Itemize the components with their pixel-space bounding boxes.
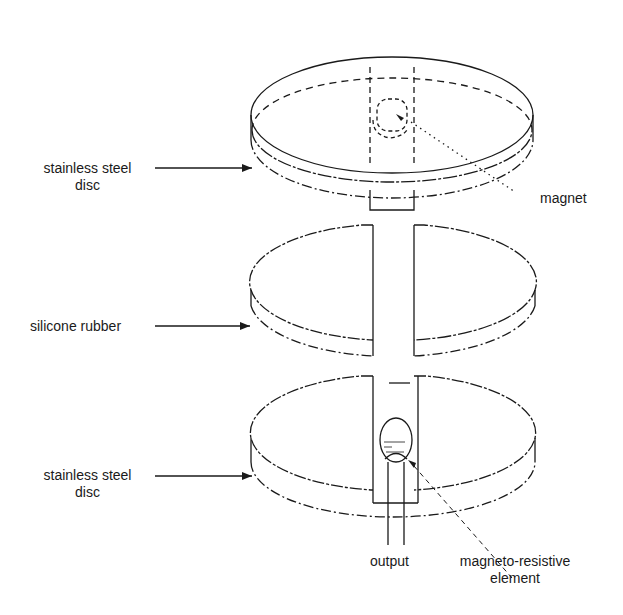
mr-element-label: magneto-resistive element xyxy=(446,553,584,587)
silicone-rubber-disc xyxy=(250,225,537,356)
top-disc-label-line1: stainless steel xyxy=(30,160,145,177)
arrowhead-icon xyxy=(242,164,252,172)
arrowhead-icon xyxy=(242,472,252,480)
bottom-disc-label-line1: stainless steel xyxy=(30,467,145,484)
sensor-stack-diagram xyxy=(0,0,623,615)
top-disc-label-line2: disc xyxy=(30,177,145,194)
label-arrows xyxy=(155,164,252,480)
silicone-rubber-label-text: silicone rubber xyxy=(30,318,121,335)
arrowhead-icon xyxy=(240,322,250,330)
magneto-resistive-element xyxy=(380,418,416,545)
mr-element-label-line2: element xyxy=(446,570,584,587)
top-disc-label: stainless steel disc xyxy=(30,160,145,194)
magnet-arrowhead-icon xyxy=(396,114,404,121)
magnet-leader-line xyxy=(411,122,515,192)
magnet-label: magnet xyxy=(540,190,587,207)
mr-element-label-line1: magneto-resistive xyxy=(446,553,584,570)
bottom-disc-label-line2: disc xyxy=(30,484,145,501)
magnet xyxy=(373,99,408,138)
output-label: output xyxy=(370,553,409,570)
top-stainless-steel-disc xyxy=(251,57,533,210)
magnet-label-text: magnet xyxy=(540,190,587,207)
bottom-stainless-steel-disc xyxy=(250,376,535,517)
output-label-text: output xyxy=(370,553,409,570)
bottom-disc-label: stainless steel disc xyxy=(30,467,145,501)
silicone-rubber-label: silicone rubber xyxy=(30,318,121,335)
